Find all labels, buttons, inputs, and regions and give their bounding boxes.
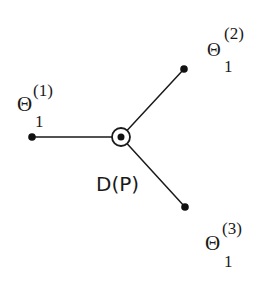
center-node-dot xyxy=(118,134,125,141)
label-theta3: Θ (3) 1 xyxy=(205,219,242,271)
theta3-superscript: (3) xyxy=(222,219,242,238)
label-theta1: Θ (1) 1 xyxy=(17,81,53,131)
node-theta3 xyxy=(181,203,189,211)
star-graph-diagram: D(P) Θ (1) 1 Θ (2) 1 Θ (3) 1 xyxy=(0,0,264,281)
theta2-symbol: Θ xyxy=(207,39,221,60)
edge-center-to-theta2 xyxy=(121,69,184,137)
theta2-superscript: (2) xyxy=(224,24,244,43)
theta1-subscript: 1 xyxy=(35,112,44,131)
theta3-subscript: 1 xyxy=(224,252,233,271)
label-theta2: Θ (2) 1 xyxy=(207,24,244,76)
theta1-superscript: (1) xyxy=(33,81,53,100)
center-label: D(P) xyxy=(96,172,139,196)
node-theta2 xyxy=(180,65,188,73)
theta1-symbol: Θ xyxy=(17,92,32,116)
theta2-subscript: 1 xyxy=(224,57,233,76)
theta3-symbol: Θ xyxy=(205,231,220,255)
node-theta1 xyxy=(28,133,36,141)
